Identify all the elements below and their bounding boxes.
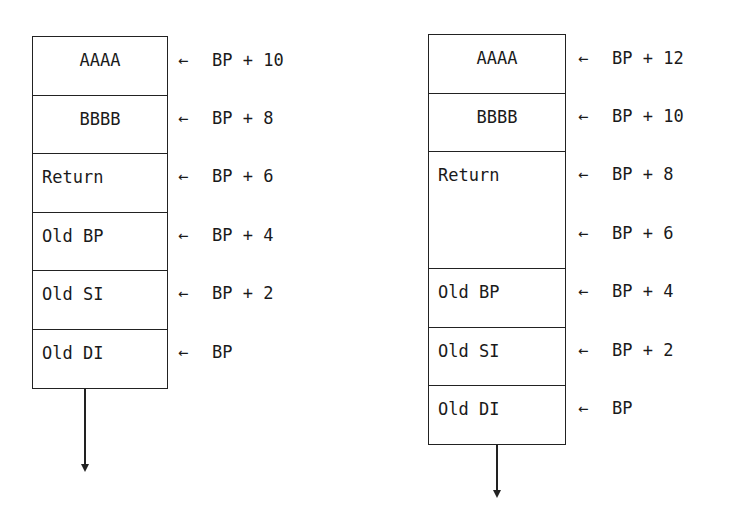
right-cell-aaaa: AAAA bbox=[429, 35, 565, 94]
pointer-text: BP + 6 bbox=[212, 166, 273, 186]
left-arrow-icon: ← bbox=[178, 166, 212, 186]
left-arrow-icon: ← bbox=[178, 225, 212, 245]
left-cell-bbbb: BBBB bbox=[33, 95, 167, 154]
pointer-text: BP + 12 bbox=[612, 48, 684, 68]
left-arrow-icon: ← bbox=[178, 50, 212, 70]
pointer-text: BP + 2 bbox=[612, 340, 673, 360]
left-down-arrow-icon bbox=[81, 464, 89, 472]
left-pointer-3: ←BP + 4 bbox=[178, 225, 273, 245]
pointer-text: BP + 4 bbox=[212, 225, 273, 245]
right-cell-bbbb: BBBB bbox=[429, 93, 565, 152]
pointer-text: BP + 2 bbox=[212, 283, 273, 303]
pointer-text: BP + 8 bbox=[212, 108, 273, 128]
pointer-text: BP + 10 bbox=[212, 50, 284, 70]
right-stack-frame: AAAA BBBB Return Old BP Old SI Old DI bbox=[428, 34, 566, 445]
left-arrow-icon: ← bbox=[578, 106, 612, 126]
left-arrow-icon: ← bbox=[578, 48, 612, 68]
right-pointer-6: ←BP bbox=[578, 398, 632, 418]
left-arrow-icon: ← bbox=[178, 108, 212, 128]
left-stack-frame: AAAA BBBB Return Old BP Old SI Old DI bbox=[32, 36, 168, 389]
left-pointer-1: ←BP + 8 bbox=[178, 108, 273, 128]
left-arrow-icon: ← bbox=[178, 342, 212, 362]
right-cell-return: Return bbox=[429, 151, 565, 269]
pointer-text: BP bbox=[612, 398, 632, 418]
left-cell-aaaa: AAAA bbox=[33, 37, 167, 96]
left-arrow-icon: ← bbox=[578, 340, 612, 360]
pointer-text: BP + 10 bbox=[612, 106, 684, 126]
left-stack-growth-line bbox=[84, 389, 86, 465]
right-pointer-0: ←BP + 12 bbox=[578, 48, 684, 68]
left-arrow-icon: ← bbox=[178, 283, 212, 303]
right-pointer-3: ←BP + 6 bbox=[578, 223, 673, 243]
left-pointer-4: ←BP + 2 bbox=[178, 283, 273, 303]
pointer-text: BP + 4 bbox=[612, 281, 673, 301]
right-down-arrow-icon bbox=[493, 490, 501, 498]
right-pointer-5: ←BP + 2 bbox=[578, 340, 673, 360]
left-arrow-icon: ← bbox=[578, 281, 612, 301]
left-arrow-icon: ← bbox=[578, 223, 612, 243]
left-cell-old-bp: Old BP bbox=[33, 212, 167, 271]
right-pointer-4: ←BP + 4 bbox=[578, 281, 673, 301]
left-pointer-0: ←BP + 10 bbox=[178, 50, 284, 70]
left-arrow-icon: ← bbox=[578, 398, 612, 418]
pointer-text: BP + 6 bbox=[612, 223, 673, 243]
left-cell-return: Return bbox=[33, 153, 167, 212]
pointer-text: BP bbox=[212, 342, 232, 362]
right-pointer-2: ←BP + 8 bbox=[578, 164, 673, 184]
right-cell-old-bp: Old BP bbox=[429, 268, 565, 327]
left-arrow-icon: ← bbox=[578, 164, 612, 184]
right-pointer-1: ←BP + 10 bbox=[578, 106, 684, 126]
right-cell-old-di: Old DI bbox=[429, 385, 565, 444]
right-stack-growth-line bbox=[496, 445, 498, 491]
left-pointer-5: ←BP bbox=[178, 342, 232, 362]
pointer-text: BP + 8 bbox=[612, 164, 673, 184]
right-cell-old-si: Old SI bbox=[429, 327, 565, 386]
left-cell-old-si: Old SI bbox=[33, 270, 167, 329]
left-pointer-2: ←BP + 6 bbox=[178, 166, 273, 186]
left-cell-old-di: Old DI bbox=[33, 329, 167, 388]
